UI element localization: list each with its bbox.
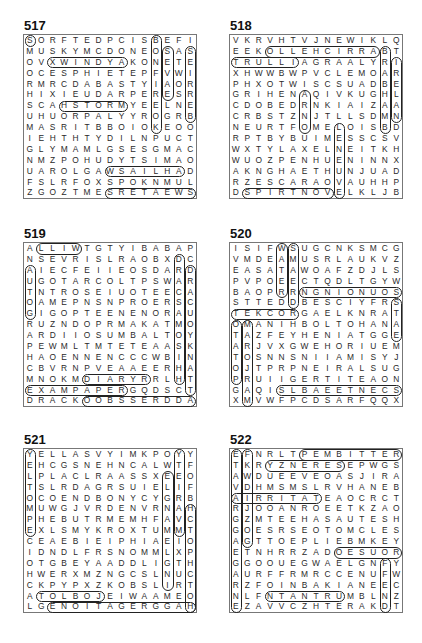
grid-letter: V xyxy=(299,35,310,46)
grid-letter: O xyxy=(379,287,390,298)
grid-letter: U xyxy=(241,569,252,580)
grid-letter: O xyxy=(241,525,252,536)
grid-letter: E xyxy=(104,363,115,374)
grid-letter: L xyxy=(345,111,356,122)
grid-letter: R xyxy=(379,471,390,482)
grid-letter: Z xyxy=(368,100,379,111)
grid-letter: O xyxy=(150,308,161,319)
grid-letter: C xyxy=(58,265,69,276)
grid-letter: S xyxy=(379,514,390,525)
grid-letter: A xyxy=(310,547,321,558)
letter-grid: ALLIWTGTYIBABAPNSEVRISLRAOBXDCAIECFEIIEO… xyxy=(23,242,197,407)
grid-letter: A xyxy=(24,243,35,254)
grid-letter: B xyxy=(391,482,402,493)
grid-letter: Z xyxy=(299,601,310,612)
grid-letter: N xyxy=(104,569,115,580)
grid-letter: T xyxy=(356,449,367,460)
grid-letter: R xyxy=(139,111,150,122)
grid-letter: S xyxy=(356,133,367,144)
grid-letter: J xyxy=(310,35,321,46)
grid-letter: T xyxy=(104,341,115,352)
grid-letter: M xyxy=(391,341,402,352)
grid-letter: M xyxy=(299,569,310,580)
grid-letter: T xyxy=(127,79,138,90)
grid-letter: S xyxy=(322,514,333,525)
grid-letter: E xyxy=(299,166,310,177)
grid-letter: H xyxy=(276,166,287,177)
grid-letter: U xyxy=(47,111,58,122)
grid-letter: M xyxy=(162,525,173,536)
grid-letter: E xyxy=(47,601,58,612)
grid-letter: A xyxy=(116,471,127,482)
grid-letter: A xyxy=(287,177,298,188)
grid-letter: O xyxy=(116,46,127,57)
grid-letter: C xyxy=(173,385,184,396)
grid-letter: M xyxy=(368,243,379,254)
grid-letter: H xyxy=(322,341,333,352)
grid-letter: R xyxy=(230,580,241,591)
grid-letter: R xyxy=(241,111,252,122)
grid-letter: S xyxy=(287,243,298,254)
grid-letter: I xyxy=(81,601,92,612)
grid-letter: B xyxy=(287,133,298,144)
grid-letter: A xyxy=(47,395,58,406)
grid-letter: O xyxy=(24,297,35,308)
grid-letter: K xyxy=(93,525,104,536)
grid-letter: C xyxy=(127,352,138,363)
grid-letter: A xyxy=(345,177,356,188)
grid-letter: U xyxy=(241,155,252,166)
grid-letter: A xyxy=(47,385,58,396)
grid-letter: K xyxy=(185,341,196,352)
grid-letter: F xyxy=(264,243,275,254)
grid-letter: W xyxy=(35,569,46,580)
grid-letter: C xyxy=(35,493,46,504)
grid-letter: S xyxy=(310,254,321,265)
grid-letter: E xyxy=(104,308,115,319)
grid-letter: D xyxy=(287,297,298,308)
grid-letter: A xyxy=(81,385,92,396)
grid-letter: A xyxy=(104,89,115,100)
grid-letter: C xyxy=(356,493,367,504)
grid-letter: R xyxy=(264,122,275,133)
grid-letter: N xyxy=(116,460,127,471)
grid-letter: L xyxy=(58,449,69,460)
grid-letter: E xyxy=(93,536,104,547)
grid-letter: P xyxy=(241,133,252,144)
grid-letter: J xyxy=(310,111,321,122)
grid-letter: M xyxy=(24,503,35,514)
grid-letter: L xyxy=(70,341,81,352)
grid-letter: C xyxy=(185,569,196,580)
grid-letter: C xyxy=(230,111,241,122)
grid-letter: T xyxy=(93,601,104,612)
grid-letter: D xyxy=(104,46,115,57)
grid-letter: I xyxy=(70,122,81,133)
grid-letter: L xyxy=(47,243,58,254)
grid-letter: T xyxy=(81,341,92,352)
grid-letter: A xyxy=(230,536,241,547)
grid-letter: O xyxy=(379,547,390,558)
grid-letter: S xyxy=(24,35,35,46)
grid-letter: Y xyxy=(70,46,81,57)
grid-letter: Y xyxy=(185,330,196,341)
grid-letter: S xyxy=(24,100,35,111)
grid-letter: R xyxy=(150,503,161,514)
grid-letter: Y xyxy=(264,144,275,155)
grid-letter: O xyxy=(368,68,379,79)
grid-letter: N xyxy=(162,569,173,580)
grid-letter: E xyxy=(58,536,69,547)
grid-letter: V xyxy=(299,471,310,482)
grid-letter: G xyxy=(368,330,379,341)
grid-letter: N xyxy=(310,100,321,111)
grid-letter: R xyxy=(173,111,184,122)
grid-letter: G xyxy=(230,525,241,536)
grid-letter: H xyxy=(185,503,196,514)
grid-letter: P xyxy=(185,547,196,558)
grid-letter: S xyxy=(299,482,310,493)
grid-letter: O xyxy=(139,254,150,265)
grid-letter: H xyxy=(310,155,321,166)
grid-letter: S xyxy=(127,395,138,406)
grid-letter: R xyxy=(356,46,367,57)
grid-letter: O xyxy=(24,558,35,569)
grid-letter: P xyxy=(299,68,310,79)
grid-letter: K xyxy=(253,46,264,57)
